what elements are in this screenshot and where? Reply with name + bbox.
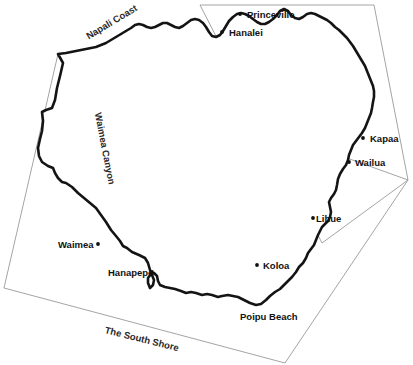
place-label-wailua[interactable]: Wailua [355,158,385,168]
kauai-region-map: PrincevilleHanaleiKapaaWailuaLihueKoloaW… [0,0,413,365]
place-dot-koloa[interactable] [255,263,259,267]
place-label-hanalei[interactable]: Hanalei [229,28,263,38]
place-dot-princeville[interactable] [238,12,242,16]
place-label-poipu-beach[interactable]: Poipu Beach [240,312,298,322]
place-dot-waimea[interactable] [96,242,100,246]
place-label-princeville[interactable]: Princeville [247,10,295,20]
place-label-waimea[interactable]: Waimea [58,240,94,250]
map-canvas [0,0,413,365]
place-dot-hanalei[interactable] [220,30,224,34]
place-label-koloa[interactable]: Koloa [263,261,289,271]
place-dot-lihue[interactable] [311,216,315,220]
place-label-lihue[interactable]: Lihue [316,214,341,224]
place-dot-wailua[interactable] [347,160,351,164]
place-label-kapaa[interactable]: Kapaa [370,134,399,144]
place-label-hanapepe[interactable]: Hanapepe [108,268,153,278]
place-dot-kapaa[interactable] [361,136,365,140]
